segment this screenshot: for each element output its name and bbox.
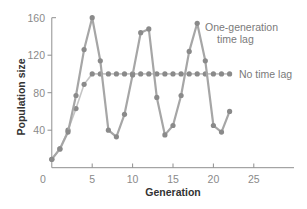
annotation-lag-line1: One-generation [205,21,278,33]
y-tick-120: 120 [27,49,45,61]
annotation-lag-line2: time lag [217,33,254,45]
x-tick-25: 25 [248,173,260,185]
population-chart: 160 120 80 40 Population size 0 5 10 15 … [0,0,307,209]
data-point [146,26,151,31]
data-point [146,71,151,76]
data-point [195,21,200,26]
x-tick-10: 10 [127,173,139,185]
data-point [179,71,184,76]
data-point [187,71,192,76]
data-point [219,71,224,76]
x-axis: 0 5 10 15 20 25 Generation [40,164,294,199]
data-point [211,123,216,128]
x-tick-15: 15 [167,173,179,185]
data-point [114,71,119,76]
data-point [122,71,127,76]
data-point [203,58,208,63]
y-axis-title: Population size [15,58,27,135]
chart-canvas: 160 120 80 40 Population size 0 5 10 15 … [0,0,307,209]
data-point [114,134,119,139]
y-tick-80: 80 [33,87,45,99]
data-point [98,58,103,63]
x-tick-0: 0 [40,173,46,185]
y-tick-160: 160 [27,12,45,24]
data-point [211,71,216,76]
data-point [49,157,54,162]
data-point [82,47,87,52]
data-point [187,49,192,54]
data-point [170,123,175,128]
data-point [90,71,95,76]
data-point [195,71,200,76]
data-point [57,146,62,151]
series-one-generation-lag [49,15,232,162]
data-point [154,95,159,100]
data-point [82,82,87,87]
data-point [219,130,224,135]
series-line [52,18,230,160]
data-point [138,71,143,76]
y-tick-40: 40 [33,124,45,136]
x-tick-20: 20 [208,173,220,185]
legend-annotations: One-generation time lag No time lag [205,21,292,80]
data-point [90,15,95,20]
data-point [106,128,111,133]
data-point [162,71,167,76]
data-point [106,71,111,76]
data-point [162,132,167,137]
annotation-no-lag: No time lag [239,68,292,80]
data-point [130,72,135,77]
y-axis: 160 120 80 40 Population size [15,12,56,168]
data-point [73,93,78,98]
x-tick-5: 5 [89,173,95,185]
data-point [227,109,232,114]
series-no-time-lag [49,71,232,162]
data-point [227,71,232,76]
data-point [179,93,184,98]
x-axis-title: Generation [145,186,200,198]
data-point [138,30,143,35]
data-point [122,112,127,117]
data-point [65,130,70,135]
data-point [170,71,175,76]
